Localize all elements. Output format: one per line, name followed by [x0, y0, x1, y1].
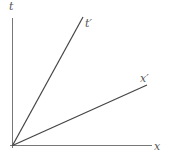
t-prime-line: [13, 17, 84, 146]
t-axis-label: t: [9, 0, 14, 13]
x-prime-label: x′: [140, 72, 149, 85]
x-axis-label: x: [154, 140, 161, 153]
t-prime-label: t′: [85, 17, 92, 30]
spacetime-diagram: t x t′ x′: [0, 0, 169, 159]
x-prime-line: [13, 85, 148, 146]
